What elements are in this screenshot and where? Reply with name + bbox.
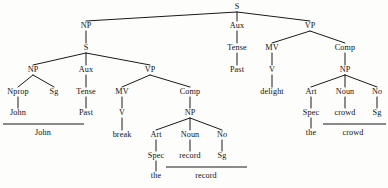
tree-node-break-term: break (113, 131, 132, 139)
tree-node-vp-main: VP (305, 22, 316, 30)
tree-node-s-embedded: S (84, 44, 89, 52)
tree-edge-vp-emb-to-comp-emb (150, 75, 190, 87)
tree-node-noun-emb: Noun (181, 131, 200, 139)
tree-edge-vp-main-to-comp-main (310, 31, 345, 43)
tree-node-aux-main: Aux (230, 22, 244, 30)
tree-node-v-emb: V (119, 109, 125, 117)
tree-node-tense-emb: Tense (76, 88, 95, 96)
tree-node-np-obj-main: NP (340, 66, 351, 74)
tree-edge-s-embedded-to-np-emb (33, 53, 86, 65)
tree-edge-s-root-to-np-subj (86, 12, 237, 21)
tree-node-record-term: record (179, 152, 201, 160)
tree-node-phrase-record: record (195, 172, 217, 180)
tree-node-np-subj: NP (81, 22, 92, 30)
tree-node-aux-emb: Aux (79, 66, 93, 74)
tree-node-noun-main: Noun (336, 88, 355, 96)
tree-node-sg-subj: Sg (50, 88, 59, 96)
tree-node-sg-main: Sg (373, 109, 382, 117)
tree-node-past-emb: Past (79, 109, 93, 117)
tree-edge-np-obj-emb-to-no-emb (190, 118, 222, 130)
syntax-tree-diagram: SNPAuxVPSTenseMVCompNPAuxVPPastVNPNpropS… (0, 0, 388, 188)
tree-node-the-emb: the (151, 172, 161, 180)
tree-edge-s-embedded-to-vp-emb (86, 53, 150, 65)
tree-node-np-obj-emb: NP (185, 109, 196, 117)
tree-node-nprop: Nprop (7, 88, 28, 96)
tree-node-comp-main: Comp (335, 44, 355, 52)
tree-node-spec-emb: Spec (148, 152, 164, 160)
tree-node-comp-emb: Comp (180, 88, 200, 96)
tree-node-past-main: Past (230, 66, 244, 74)
tree-node-vp-emb: VP (145, 66, 156, 74)
tree-node-no-main: No (372, 88, 382, 96)
tree-node-john-term: John (10, 109, 26, 117)
tree-node-crowd-term: crowd (335, 109, 356, 117)
tree-edge-vp-emb-to-mv-emb (122, 75, 150, 87)
tree-edge-np-emb-to-nprop (18, 75, 33, 87)
tree-node-art-emb: Art (150, 131, 161, 139)
tree-node-sg-emb: Sg (218, 152, 227, 160)
tree-edge-np-obj-emb-to-art-emb (156, 118, 190, 130)
tree-edge-vp-main-to-mv-main (272, 31, 310, 43)
tree-node-np-emb: NP (28, 66, 39, 74)
tree-node-phrase-john: John (35, 129, 51, 137)
tree-node-no-emb: No (217, 131, 227, 139)
tree-node-delight: delight (260, 88, 283, 96)
tree-node-mv-main: MV (265, 44, 278, 52)
tree-node-mv-emb: MV (115, 88, 128, 96)
tree-node-s-root: S (235, 3, 240, 11)
tree-node-tense-main: Tense (227, 44, 246, 52)
tree-node-art-main: Art (305, 88, 316, 96)
tree-node-phrase-crowd: crowd (343, 129, 364, 137)
tree-node-spec-main: Spec (303, 109, 319, 117)
tree-node-the-main: the (306, 129, 316, 137)
tree-edge-np-emb-to-sg-subj (33, 75, 54, 87)
tree-edge-np-obj-main-to-art-main (311, 75, 345, 87)
tree-node-v-main: V (269, 66, 275, 74)
tree-edge-s-root-to-vp-main (237, 12, 310, 21)
tree-edge-np-obj-main-to-no-main (345, 75, 377, 87)
